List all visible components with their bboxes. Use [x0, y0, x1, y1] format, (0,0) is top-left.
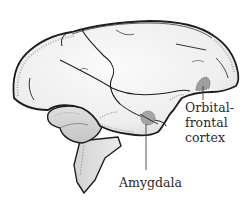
orbitofrontal-label-line2: frontal	[185, 115, 234, 130]
orbitofrontal-label: Orbital- frontal cortex	[185, 100, 234, 145]
brainstem	[74, 137, 121, 193]
orbitofrontal-label-line3: cortex	[185, 130, 234, 145]
amygdala-region	[141, 111, 155, 125]
amygdala-label: Amygdala	[119, 175, 182, 190]
brain-diagram: Orbital- frontal cortex Amygdala	[0, 0, 249, 208]
orbitofrontal-label-line1: Orbital-	[185, 100, 234, 115]
